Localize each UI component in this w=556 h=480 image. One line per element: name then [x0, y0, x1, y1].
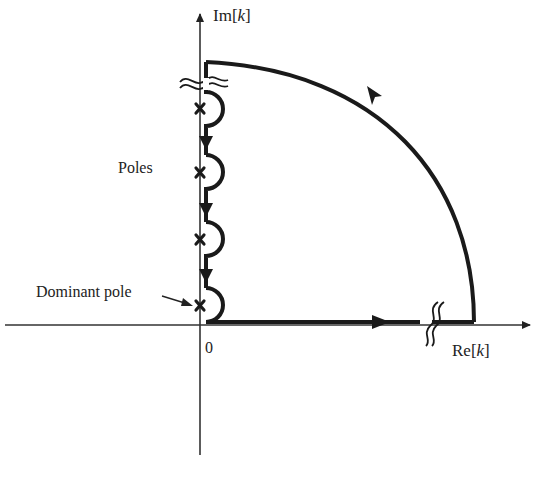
- origin-label: 0: [205, 339, 213, 357]
- contour-diagram: [0, 0, 556, 480]
- contour-path: [206, 62, 474, 322]
- arrow-down-icon: [199, 269, 213, 283]
- label-prefix: Re[: [452, 341, 477, 360]
- direction-arrows: [199, 86, 390, 329]
- label-suffix: ]: [484, 341, 490, 360]
- arrow-down-icon: [199, 203, 213, 217]
- label-prefix: Im[: [213, 6, 238, 25]
- imaginary-axis-label: Im[k]: [213, 6, 251, 26]
- arrow-right-icon: [372, 315, 390, 329]
- arrow-down-icon: [199, 136, 213, 150]
- label-var: k: [238, 6, 246, 25]
- label-suffix: ]: [245, 6, 251, 25]
- arrow-arc-icon: [367, 86, 382, 105]
- poles-label: Poles: [118, 159, 153, 177]
- label-var: k: [477, 341, 485, 360]
- dominant-pole-label: Dominant pole: [36, 283, 132, 301]
- real-axis-label: Re[k]: [452, 341, 490, 361]
- dominant-pole-pointer: [162, 296, 193, 306]
